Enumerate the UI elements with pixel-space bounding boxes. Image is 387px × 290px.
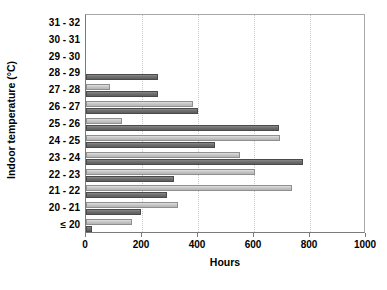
y-axis-title-text: Indoor temperature (°C) — [5, 61, 17, 179]
plot-area — [85, 14, 365, 233]
y-axis-tick-label: 23 - 24 — [22, 149, 84, 166]
x-axis-tick-label: 0 — [82, 239, 88, 250]
x-axis-tick-mark — [365, 233, 366, 237]
y-axis-tick-label: 30 - 31 — [22, 31, 84, 48]
y-axis-tick-label: 20 - 21 — [22, 199, 84, 216]
bar-series-a — [86, 169, 255, 175]
y-axis-tick-label: ≤ 20 — [22, 216, 84, 233]
x-axis-tick-label: 400 — [189, 239, 206, 250]
bar-group — [86, 217, 364, 233]
bar-series-a — [86, 185, 292, 191]
x-axis-tick-labels: 02004006008001000 — [85, 239, 365, 253]
bar-series-b — [86, 74, 158, 80]
bar-series-a — [86, 84, 110, 90]
x-axis-tick-mark — [85, 233, 86, 237]
bar-group — [86, 66, 364, 83]
bar-series-b — [86, 159, 303, 165]
x-axis-tick-label: 600 — [245, 239, 262, 250]
x-axis-tick-label: 800 — [301, 239, 318, 250]
x-axis-tick-mark — [141, 233, 142, 237]
x-axis-tick-label: 1000 — [354, 239, 376, 250]
bars-layer — [86, 15, 364, 232]
y-axis-tick-label: 22 - 23 — [22, 166, 84, 183]
y-axis-tick-labels: 31 - 3230 - 3129 - 3028 - 2927 - 2826 - … — [22, 14, 84, 233]
y-axis-tick-label: 27 - 28 — [22, 81, 84, 98]
bar-series-a — [86, 118, 122, 124]
bar-series-b — [86, 108, 198, 114]
x-axis-tick-mark — [197, 233, 198, 237]
x-axis-tick-label: 200 — [133, 239, 150, 250]
bar-series-b — [86, 226, 92, 232]
bar-chart: Indoor temperature (°C) 31 - 3230 - 3129… — [0, 0, 387, 290]
bar-group — [86, 15, 364, 32]
y-axis-tick-label: 31 - 32 — [22, 14, 84, 31]
bar-series-a — [86, 135, 280, 141]
bar-series-b — [86, 91, 158, 97]
x-axis-title: Hours — [85, 256, 365, 268]
bar-group — [86, 200, 364, 217]
bar-group — [86, 133, 364, 150]
bar-series-a — [86, 202, 178, 208]
y-axis-tick-label: 28 - 29 — [22, 65, 84, 82]
x-axis-tick-marks — [85, 233, 365, 238]
y-axis-tick-label: 24 - 25 — [22, 132, 84, 149]
y-axis-tick-label: 26 - 27 — [22, 98, 84, 115]
bar-series-b — [86, 176, 174, 182]
y-axis-tick-label: 25 - 26 — [22, 115, 84, 132]
y-axis-tick-label: 29 - 30 — [22, 48, 84, 65]
bar-group — [86, 116, 364, 133]
x-axis-tick-mark — [253, 233, 254, 237]
bar-series-a — [86, 219, 132, 225]
bar-group — [86, 150, 364, 167]
bar-series-a — [86, 152, 240, 158]
bar-group — [86, 32, 364, 49]
bar-series-b — [86, 125, 279, 131]
x-axis-tick-mark — [309, 233, 310, 237]
bar-series-a — [86, 101, 193, 107]
bar-group — [86, 82, 364, 99]
y-axis-tick-label: 21 - 22 — [22, 182, 84, 199]
bar-series-b — [86, 192, 167, 198]
bar-group — [86, 49, 364, 66]
bar-group — [86, 167, 364, 184]
bar-series-b — [86, 142, 215, 148]
bar-series-b — [86, 209, 141, 215]
bar-group — [86, 183, 364, 200]
bar-group — [86, 99, 364, 116]
y-axis-title: Indoor temperature (°C) — [0, 0, 22, 240]
